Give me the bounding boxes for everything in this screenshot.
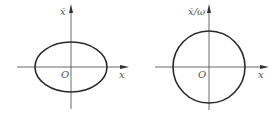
x-axis-label: x xyxy=(119,69,125,80)
x-axis-label: x xyxy=(258,69,264,80)
y-axis-arrow-icon xyxy=(69,4,73,13)
origin-label: O xyxy=(61,69,69,80)
right-phase-portrait: ẋ/ω x O xyxy=(155,4,269,110)
left-phase-portrait: ẋ x O xyxy=(17,4,129,109)
phase-portraits-figure: ẋ x O ẋ/ω x O xyxy=(0,0,278,114)
y-axis-label: ẋ/ω xyxy=(188,6,205,17)
origin-label: O xyxy=(198,69,206,80)
y-axis-arrow-icon xyxy=(207,4,211,13)
y-axis-label: ẋ xyxy=(60,6,66,17)
